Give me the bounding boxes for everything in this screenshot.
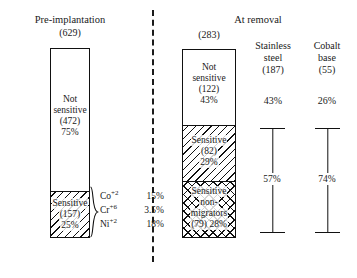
at-removal-segment-sensitive: Sensitive(82)29% [183,125,235,181]
cobalt-base-total: (55) [300,64,354,75]
cobalt-base-top-value: 26% [300,95,354,106]
ion-charge: +2 [111,189,118,197]
ion-symbol: Co [100,191,111,201]
stainless-steel-top-value: 43% [245,95,301,106]
stainless-steel-title-line2: steel [245,52,301,63]
at-removal-segment-sensitive-non-migrators: Sensitivenon-migrators(79) 28% [183,181,235,237]
ion-charge: +6 [110,203,117,211]
figure-canvas: Pre-implantation (629) Notsensitive(472)… [0,0,357,278]
ion-value: 3.5% [130,204,164,218]
range-cap-bottom [260,232,285,233]
ion-charge: +2 [110,216,117,224]
at-removal-sensitive-non-migrators-label: Sensitivenon-migrators(79) 28% [183,186,235,230]
ion-symbol: Cr [100,205,110,215]
ion-brace [89,186,99,238]
range-cap-bottom [315,232,340,233]
cobalt-base-range-value: 74% [316,173,337,185]
ion-name: Ni+2 [100,218,130,232]
pre-implantation-total: (629) [8,27,132,38]
at-removal-not-sensitive-label: Notsensitive(122)43% [183,62,235,106]
ion-symbol: Ni [100,219,110,229]
stainless-steel-title-line1: Stainless [245,40,301,51]
at-removal-bar: Notsensitive(122)43% Sensitive(82)29% Se… [182,49,236,238]
cobalt-base-title-line1: Cobalt [300,40,354,51]
pre-implantation-sensitive-label: Sensitive(157)25% [51,198,89,231]
stainless-steel-range-value: 57% [261,173,282,185]
pre-implantation-segment-not-sensitive: Notsensitive(472)75% [51,49,89,191]
pre-implantation-bar: Notsensitive(472)75% Sensitive(157)25% [50,48,90,238]
at-removal-segment-not-sensitive: Notsensitive(122)43% [183,50,235,125]
at-removal-sensitive-label: Sensitive(82)29% [183,135,235,168]
ion-row: Ni+2 18% [100,218,164,232]
ion-table: Co+2 15% Cr+6 3.5% Ni+2 18% [100,190,164,231]
ion-value: 18% [130,218,164,232]
panel-divider [152,10,154,262]
stainless-steel-total: (187) [245,64,301,75]
pre-implantation-not-sensitive-label: Notsensitive(472)75% [51,94,89,138]
at-removal-total: (283) [182,29,236,40]
ion-value: 15% [130,190,164,204]
pre-implantation-segment-sensitive: Sensitive(157)25% [51,191,89,237]
pre-implantation-title: Pre-implantation [8,14,132,26]
cobalt-base-title-line2: base [300,52,354,63]
at-removal-title: At removal [168,14,348,26]
brace-icon [89,186,99,238]
